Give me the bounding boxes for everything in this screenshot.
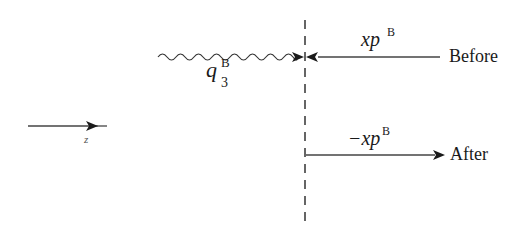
photon-label-sup: B [221, 55, 230, 71]
after-momentum-sup-text: B [382, 124, 390, 138]
photon-label-base: q [206, 57, 217, 82]
before-label: Before [449, 46, 498, 67]
before-momentum-base: xp [361, 28, 380, 50]
before-arrowhead-icon [306, 52, 318, 62]
photon-label-sub: 3 [221, 75, 228, 91]
after-label: After [450, 144, 488, 165]
photon-sub-text: 3 [221, 75, 228, 90]
before-momentum-sup-text: B [387, 25, 395, 39]
after-momentum-sup: B [382, 124, 390, 139]
z-axis-label: z [84, 133, 88, 145]
z-axis-label-text: z [84, 133, 88, 145]
before-momentum-label: xp [361, 28, 380, 51]
after-momentum-label: −xp [348, 127, 380, 150]
before-momentum-sup: B [387, 25, 395, 40]
after-momentum-base: −xp [348, 127, 380, 149]
photon-arrowhead-icon [292, 52, 304, 62]
photon-sup-text: B [221, 55, 230, 70]
diagram-canvas [0, 0, 525, 236]
after-label-text: After [450, 144, 488, 164]
before-label-text: Before [449, 46, 498, 66]
photon-label: q [206, 57, 217, 83]
